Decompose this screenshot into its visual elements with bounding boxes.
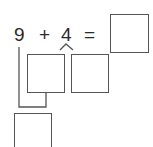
operand-2: 4 (61, 25, 72, 44)
decomposition-box-1[interactable] (27, 54, 65, 93)
make-ten-box[interactable] (14, 113, 52, 147)
answer-box[interactable] (110, 14, 149, 53)
plus-operator: + (39, 25, 50, 44)
equals-sign: = (84, 25, 95, 44)
operand-1: 9 (14, 25, 25, 44)
decomposition-box-2[interactable] (71, 54, 109, 93)
